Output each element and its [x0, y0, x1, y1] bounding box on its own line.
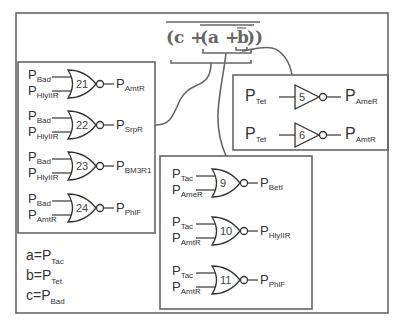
- circuit-diagram: (c + (a + b )) 21PBadPHlyIIRPAmtR22PBadP…: [0, 0, 400, 328]
- nor-gate-10: 10PTacPAmtRPHlyIIR: [172, 214, 291, 247]
- inverter-bubble: [320, 132, 327, 139]
- input-label: PAmtR: [28, 207, 57, 224]
- gate-number: 5: [299, 91, 305, 103]
- output-label: PSrpR: [116, 117, 143, 134]
- input-label: PHlyIIR: [28, 83, 59, 100]
- output-label: PBetI: [260, 175, 283, 192]
- not-gate-5: 5PTetPAmeR: [245, 85, 378, 109]
- input-label: PBad: [28, 67, 51, 84]
- output-label: PHlyIIR: [260, 223, 291, 240]
- svg-text:b=PTet: b=PTet: [26, 267, 63, 286]
- output-label: PPhlF: [260, 272, 285, 289]
- nor-gate-21: 21PBadPHlyIIRPAmtR: [28, 67, 145, 100]
- inverter-bubble: [97, 163, 104, 170]
- input-label: PBad: [28, 149, 51, 166]
- inverter-bubble: [97, 122, 104, 129]
- connector-right: [242, 47, 292, 75]
- input-label: PHlyIIR: [28, 124, 59, 141]
- nor-gate-23: 23PBadPHlyIIRPBM3R1: [28, 149, 152, 182]
- input-label: PHlyIIR: [28, 165, 59, 182]
- inverter-bubble: [97, 205, 104, 212]
- input-label: PTac: [172, 263, 193, 280]
- gate-number: 22: [76, 119, 88, 131]
- nor-gate-9: 9PTacPAmeRPBetI: [172, 166, 283, 199]
- output-label: PAmtR: [116, 76, 145, 93]
- output-label: PAmeR: [345, 87, 378, 106]
- gate-number: 21: [76, 78, 88, 90]
- inverter-bubble: [97, 81, 104, 88]
- gate-number: 23: [76, 160, 88, 172]
- nor-gate-11: 11PTacPAmtRPPhlF: [172, 263, 285, 296]
- gate-number: 6: [299, 129, 305, 141]
- inverter-bubble: [241, 228, 248, 235]
- input-label: PTac: [172, 214, 193, 231]
- input-label: PBad: [28, 108, 51, 125]
- input-label: PAmeR: [172, 182, 203, 199]
- gate-number: 9: [220, 177, 226, 189]
- nor-gate-24: 24PBadPAmtRPPhlF: [28, 191, 141, 224]
- output-label: PPhlF: [116, 200, 141, 217]
- nor-gate-22: 22PBadPHlyIIRPSrpR: [28, 108, 143, 141]
- connector-left: [155, 63, 211, 125]
- input-label: PTac: [172, 166, 193, 183]
- gate-number: 10: [220, 225, 232, 237]
- output-label: PAmtR: [345, 125, 376, 144]
- expr-c: (c +: [166, 27, 205, 47]
- boolean-expression: (c + (a + b )): [166, 22, 263, 63]
- inverter-bubble: [320, 94, 327, 101]
- input-label: PAmtR: [172, 230, 201, 247]
- input-label: PAmtR: [172, 279, 201, 296]
- inverter-bubble: [241, 180, 248, 187]
- input-label: PBad: [28, 191, 51, 208]
- svg-text:c=PBad: c=PBad: [26, 287, 65, 306]
- not-gate-6: 6PTetPAmtR: [245, 123, 376, 147]
- inverter-bubble: [241, 277, 248, 284]
- svg-text:a=PTac: a=PTac: [26, 247, 64, 266]
- gate-number: 24: [76, 202, 88, 214]
- gate-number: 11: [220, 274, 231, 286]
- variable-legend: a=PTac b=PTet c=PBad: [26, 247, 65, 306]
- input-label: PTet: [245, 87, 267, 106]
- expr-a: (a +: [200, 27, 239, 47]
- expr-close: )): [247, 27, 263, 47]
- input-label: PTet: [245, 125, 267, 144]
- output-label: PBM3R1: [116, 158, 152, 175]
- connector-center: [218, 53, 226, 156]
